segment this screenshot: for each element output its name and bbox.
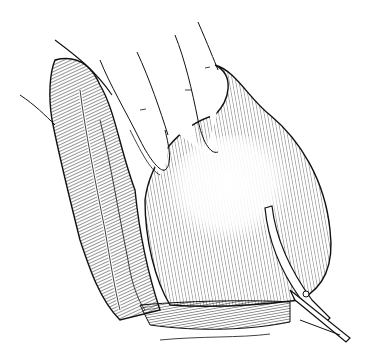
medical-illustration [0, 0, 366, 363]
illustration-svg [0, 0, 366, 363]
left-tissue [20, 58, 160, 320]
tissue-base [140, 301, 290, 340]
